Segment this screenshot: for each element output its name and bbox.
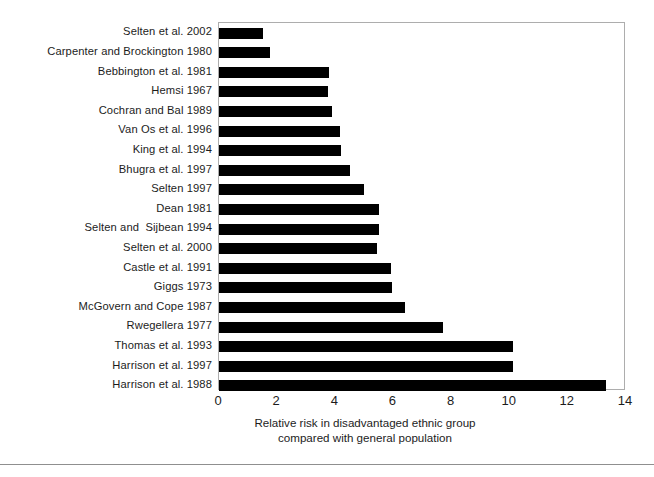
y-axis-label: Giggs 1973 bbox=[0, 281, 212, 292]
x-axis-tick-label: 2 bbox=[256, 393, 296, 409]
x-axis-tick-labels: 02468101214 bbox=[218, 393, 625, 411]
y-axis-label: Carpenter and Brockington 1980 bbox=[0, 46, 212, 57]
footer-divider bbox=[0, 464, 654, 465]
plot-area bbox=[218, 22, 625, 390]
x-axis-title-line-1: Relative risk in disadvantaged ethnic gr… bbox=[170, 415, 560, 430]
bar bbox=[219, 28, 263, 39]
y-axis-label: Harrison et al. 1988 bbox=[0, 379, 212, 390]
bar bbox=[219, 67, 329, 78]
y-axis-category-labels: Selten et al. 2002Carpenter and Brocking… bbox=[0, 22, 212, 390]
x-axis-title-line-2: compared with general population bbox=[170, 430, 560, 445]
x-axis-tick-label: 0 bbox=[198, 393, 238, 409]
bar bbox=[219, 263, 391, 274]
y-axis-label: Selten and Sijbean 1994 bbox=[0, 222, 212, 233]
y-axis-label: Castle et al. 1991 bbox=[0, 262, 212, 273]
bar-chart-figure: Selten et al. 2002Carpenter and Brocking… bbox=[0, 0, 654, 477]
bar bbox=[219, 204, 379, 215]
x-axis-tick-label: 4 bbox=[314, 393, 354, 409]
y-axis-label: Harrison et al. 1997 bbox=[0, 360, 212, 371]
x-axis-tick-label: 6 bbox=[372, 393, 412, 409]
x-axis-tick-label: 10 bbox=[489, 393, 529, 409]
y-axis-label: Bhugra et al. 1997 bbox=[0, 164, 212, 175]
bar bbox=[219, 165, 350, 176]
bar bbox=[219, 361, 513, 372]
bar bbox=[219, 322, 443, 333]
y-axis-label: Bebbington et al. 1981 bbox=[0, 66, 212, 77]
y-axis-label: Selten 1997 bbox=[0, 183, 212, 194]
y-axis-label: Selten et al. 2002 bbox=[0, 26, 212, 37]
bar bbox=[219, 184, 364, 195]
bar bbox=[219, 341, 513, 352]
y-axis-label: McGovern and Cope 1987 bbox=[0, 301, 212, 312]
bar-series bbox=[219, 23, 624, 389]
bar bbox=[219, 47, 270, 58]
bar bbox=[219, 302, 405, 313]
y-axis-label: Van Os et al. 1996 bbox=[0, 124, 212, 135]
bar bbox=[219, 106, 332, 117]
y-axis-label: Cochran and Bal 1989 bbox=[0, 105, 212, 116]
bar bbox=[219, 224, 379, 235]
bar bbox=[219, 126, 340, 137]
bar bbox=[219, 380, 606, 391]
y-axis-label: Thomas et al. 1993 bbox=[0, 340, 212, 351]
y-axis-label: King et al. 1994 bbox=[0, 144, 212, 155]
y-axis-label: Dean 1981 bbox=[0, 203, 212, 214]
x-axis-title: Relative risk in disadvantaged ethnic gr… bbox=[170, 415, 560, 445]
bar bbox=[219, 282, 392, 293]
y-axis-label: Rwegellera 1977 bbox=[0, 320, 212, 331]
bar bbox=[219, 145, 341, 156]
bar bbox=[219, 86, 328, 97]
x-axis-tick-label: 8 bbox=[431, 393, 471, 409]
x-axis-tick-label: 14 bbox=[605, 393, 645, 409]
y-axis-label: Selten et al. 2000 bbox=[0, 242, 212, 253]
y-axis-label: Hemsi 1967 bbox=[0, 85, 212, 96]
x-axis-tick-label: 12 bbox=[547, 393, 587, 409]
bar bbox=[219, 243, 377, 254]
